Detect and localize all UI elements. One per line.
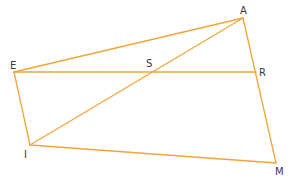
label-S: S xyxy=(146,58,152,69)
segment-EI xyxy=(14,72,30,145)
label-I: I xyxy=(24,149,27,160)
labels-group: A E S R I M xyxy=(10,5,284,177)
segment-AM xyxy=(243,18,276,163)
label-R: R xyxy=(259,67,266,78)
segment-IM xyxy=(30,145,276,163)
label-A: A xyxy=(240,5,247,16)
segments-group xyxy=(14,18,276,163)
segment-IA xyxy=(30,18,243,145)
label-M: M xyxy=(275,166,284,177)
geometry-figure: A E S R I M xyxy=(0,0,292,188)
segment-EA xyxy=(14,18,243,72)
label-E: E xyxy=(10,60,16,71)
